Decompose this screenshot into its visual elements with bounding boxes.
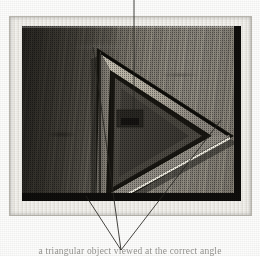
board-edge-bottom <box>22 193 241 201</box>
inner-face-detail-marker <box>117 110 143 127</box>
triangular-object <box>22 26 241 201</box>
caption-text: a triangular object viewed at the correc… <box>0 247 260 256</box>
photo-window <box>22 26 241 201</box>
board-edge-right <box>234 26 241 201</box>
print-mount <box>9 16 252 216</box>
figure-caption: a triangular object viewed at the correc… <box>0 247 260 256</box>
figure-root: a triangular object viewed at the correc… <box>0 0 260 256</box>
object-geometry <box>22 26 241 201</box>
